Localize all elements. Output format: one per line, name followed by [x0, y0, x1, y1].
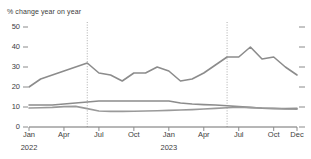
y-axis-tick-label: 10 — [2, 102, 20, 111]
x-axis-tick-label: Jan — [152, 130, 186, 139]
x-axis-tick-label: Apr — [187, 130, 221, 139]
x-axis-year-label: 2023 — [152, 143, 186, 152]
x-axis-year-label: 2022 — [12, 143, 46, 152]
y-tick-marks — [23, 27, 28, 127]
x-axis-tick-label: Jul — [82, 130, 116, 139]
x-axis-tick-label: Dec — [280, 130, 311, 139]
x-axis-tick-label: Jul — [222, 130, 256, 139]
y-axis-tick-label: 30 — [2, 62, 20, 71]
right-axis-ticks — [299, 27, 305, 127]
x-axis-tick-label: Apr — [47, 130, 81, 139]
y-axis-tick-label: 40 — [2, 42, 20, 51]
y-axis-tick-label: 50 — [2, 22, 20, 31]
chart-container: % change year on year 01020304050 Jan202… — [0, 0, 311, 159]
x-axis-tick-label: Jan — [12, 130, 46, 139]
series-line — [29, 47, 297, 87]
x-axis-tick-label: Oct — [117, 130, 151, 139]
y-axis-tick-label: 20 — [2, 82, 20, 91]
series-lines — [29, 47, 297, 111]
series-line — [29, 106, 297, 111]
